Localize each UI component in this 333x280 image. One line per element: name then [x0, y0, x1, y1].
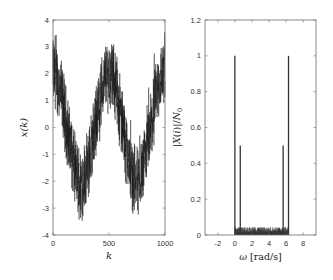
x-tick-label: 2 — [250, 239, 254, 248]
x-tick-label: 500 — [103, 239, 116, 248]
right-axes-frame — [205, 20, 316, 235]
chart-figure: -4-3-2-10123405001000kx(k) 00.20.40.60.8… — [0, 0, 333, 280]
x-axis-label: k — [106, 250, 112, 261]
y-tick-label: -2 — [42, 177, 49, 186]
signal-line — [53, 32, 165, 220]
y-axis-label: |X(i)|/N0 — [171, 108, 184, 147]
y-tick-label: 1 — [197, 51, 201, 60]
time-domain-plot: -4-3-2-10123405001000kx(k) — [18, 16, 173, 261]
x-tick-label: 8 — [301, 239, 305, 248]
y-tick-label: 0 — [197, 231, 201, 240]
y-axis-label: x(k) — [18, 118, 29, 138]
x-tick-label: -2 — [214, 239, 221, 248]
x-tick-label: 6 — [284, 239, 288, 248]
y-tick-label: -3 — [42, 204, 49, 213]
y-tick-label: 1.2 — [191, 16, 201, 25]
y-tick-label: 0.8 — [191, 87, 201, 96]
y-tick-label: 0.4 — [191, 159, 201, 168]
x-tick-label: 1000 — [157, 239, 174, 248]
x-tick-label: 0 — [233, 239, 237, 248]
y-tick-label: 0.6 — [191, 123, 201, 132]
y-tick-label: 4 — [45, 16, 49, 25]
x-tick-label: 4 — [267, 239, 271, 248]
y-tick-label: -4 — [42, 231, 49, 240]
y-tick-label: 0.2 — [191, 195, 201, 204]
y-tick-label: 1 — [45, 96, 49, 105]
x-tick-label: 0 — [51, 239, 55, 248]
y-tick-label: -1 — [42, 150, 49, 159]
x-axis-label: ω [rad/s] — [239, 251, 282, 262]
y-tick-label: 3 — [45, 42, 49, 51]
y-tick-label: 2 — [45, 69, 49, 78]
y-tick-label: 0 — [45, 123, 49, 132]
frequency-domain-plot: 00.20.40.60.811.2-202468ω [rad/s]|X(i)|/… — [171, 16, 316, 262]
